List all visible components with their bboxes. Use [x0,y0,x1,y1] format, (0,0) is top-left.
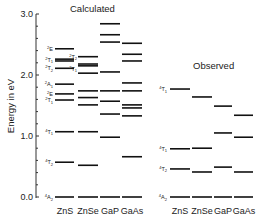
y-axis-label: Energy in eV [5,78,16,133]
y-tick-0: 0.0 [20,192,33,202]
y-tick-3: 3.0 [20,9,33,19]
state-label: 4T1 [159,145,168,154]
state-label: 4T2 [159,165,168,174]
state-label: 2E [47,45,53,52]
energy-levels [55,24,253,197]
column-label-gap: GaP [214,206,232,216]
column-label-zns: ZnS [57,206,74,216]
state-label: 4T2 [45,158,54,167]
column-label-gap: GaP [101,206,119,216]
y-axis: 3.0 2.0 1.0 0.0 Energy in eV [5,9,39,202]
column-label-zns: ZnS [172,206,189,216]
state-label: 4A2 [159,193,168,202]
energy-level-chart: 3.0 2.0 1.0 0.0 Energy in eV Calculated … [0,0,263,220]
column-label-znse: ZnSe [191,206,213,216]
column-label-gaas: GaAs [121,206,144,216]
state-label-znse: 2T1 [69,65,78,74]
column-label-znse: ZnSe [77,206,99,216]
column-label-gaas: GaAs [233,206,256,216]
state-label: 4T1 [45,128,54,137]
y-tick-1: 1.0 [20,131,33,141]
state-label: 2T2 [45,64,54,73]
state-label: 4T1 [159,85,168,94]
state-label: 2T1 [45,96,54,105]
observed-title: Observed [193,60,234,71]
column-labels: ZnSZnSeGaPGaAsZnSZnSeGaPGaAs [57,206,256,216]
state-label: 2T1 [45,56,54,65]
state-label: 2E [47,90,53,97]
y-tick-2: 2.0 [20,70,33,80]
state-label: 2A1 [45,80,54,89]
state-label: 4A2 [45,193,54,202]
calculated-title: Calculated [70,3,115,14]
